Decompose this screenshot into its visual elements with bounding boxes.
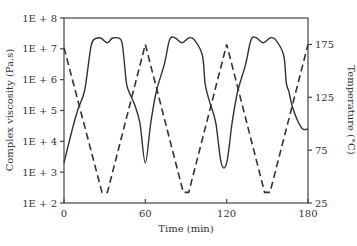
- y2-axis-title: Temperature (°C): [346, 65, 357, 154]
- y2-tick-label: 75: [315, 145, 328, 156]
- y-tick-label: 1E + 3: [22, 167, 57, 178]
- viscosity-line: [64, 37, 308, 168]
- y-tick-label: 1E + 6: [22, 74, 57, 85]
- y-axis-title: Complex viscosity (Pa.s): [4, 49, 15, 172]
- y2-tick-label: 125: [315, 92, 334, 103]
- y-tick-label: 1E + 8: [22, 13, 57, 24]
- x-tick-label: 0: [61, 208, 67, 219]
- y-tick-label: 1E + 5: [22, 105, 57, 116]
- temperature-line: [64, 44, 308, 192]
- y2-tick-label: 25: [315, 198, 328, 209]
- y-tick-label: 1E + 4: [22, 136, 57, 147]
- y-tick-label: 1E + 7: [22, 43, 57, 54]
- x-axis-title: Time (min): [158, 223, 213, 234]
- x-axis-ticks: 060120180: [61, 199, 318, 219]
- y-tick-label: 1E + 2: [22, 198, 57, 209]
- viscosity-temperature-chart: 1E + 21E + 31E + 41E + 51E + 61E + 71E +…: [0, 0, 357, 246]
- plot-frame: [64, 18, 308, 203]
- x-tick-label: 60: [139, 208, 152, 219]
- x-tick-label: 180: [298, 208, 317, 219]
- y2-tick-label: 175: [315, 39, 334, 50]
- right-axis-ticks: 2575125175: [308, 39, 334, 209]
- x-tick-label: 120: [217, 208, 236, 219]
- left-axis-ticks: 1E + 21E + 31E + 41E + 51E + 61E + 71E +…: [22, 13, 64, 209]
